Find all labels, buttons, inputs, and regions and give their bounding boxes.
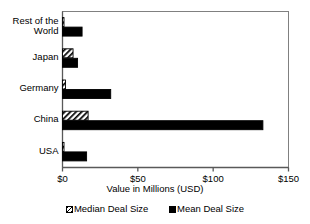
chart-legend: Median Deal Size Mean Deal Size bbox=[0, 203, 310, 214]
bar-chart: Rest of the WorldJapanGermanyChinaUSA $0… bbox=[0, 0, 310, 224]
legend-label-mean: Mean Deal Size bbox=[177, 203, 244, 214]
bars-layer bbox=[63, 18, 263, 161]
bar-mean-deal-size-rest-of-the-world bbox=[63, 27, 83, 36]
legend-label-median: Median Deal Size bbox=[74, 203, 148, 214]
legend-item-median: Median Deal Size bbox=[66, 203, 148, 214]
category-label-germany: Germany bbox=[1, 83, 59, 94]
category-label-rest-of-the-world: Rest of the World bbox=[1, 16, 59, 37]
category-label-china: China bbox=[1, 114, 59, 125]
bar-median-deal-size-rest-of-the-world bbox=[63, 18, 65, 27]
median-swatch-icon bbox=[66, 206, 73, 213]
bar-median-deal-size-china bbox=[63, 111, 89, 120]
bar-mean-deal-size-usa bbox=[63, 152, 87, 161]
bar-mean-deal-size-japan bbox=[63, 58, 78, 67]
mean-swatch-icon bbox=[169, 206, 176, 213]
bar-median-deal-size-germany bbox=[63, 80, 66, 89]
x-tick-label-2: $100 bbox=[193, 173, 233, 184]
x-tick-label-0: $0 bbox=[43, 173, 83, 184]
bar-mean-deal-size-china bbox=[63, 121, 263, 130]
category-label-usa: USA bbox=[1, 146, 59, 157]
bar-median-deal-size-japan bbox=[63, 49, 74, 58]
bar-mean-deal-size-germany bbox=[63, 90, 111, 99]
x-tick-label-3: $150 bbox=[269, 173, 309, 184]
x-tick-label-1: $50 bbox=[118, 173, 158, 184]
category-label-japan: Japan bbox=[1, 52, 59, 63]
x-axis-title: Value in Millions (USD) bbox=[0, 183, 310, 194]
bar-median-deal-size-usa bbox=[63, 142, 65, 151]
legend-item-mean: Mean Deal Size bbox=[169, 203, 244, 214]
